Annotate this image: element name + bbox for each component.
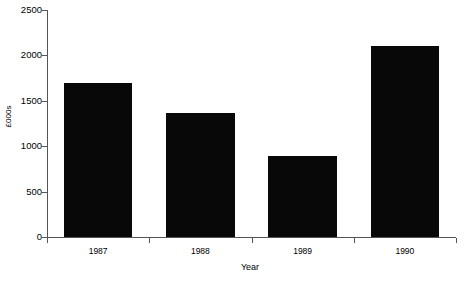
plot-area (47, 10, 456, 237)
x-axis-tick-label: 1987 (47, 246, 149, 256)
x-axis-tick-label: 1989 (252, 246, 354, 256)
x-axis-tick-label: 1988 (149, 246, 251, 256)
y-axis-tick-label: 2500 (8, 5, 42, 15)
bar (371, 46, 440, 237)
x-axis-tick-label: 1990 (354, 246, 456, 256)
x-axis-title: Year (0, 262, 467, 272)
y-axis-tick-label: 2000 (8, 50, 42, 60)
x-axis-tick-mark (149, 238, 150, 243)
bar (268, 156, 337, 237)
bar (64, 83, 133, 237)
y-axis-tick-labels: 05001000150020002500 (6, 0, 42, 286)
y-axis-tick-label: 1500 (8, 96, 42, 106)
x-axis-tick-mark (47, 238, 48, 243)
x-axis-tick-mark (456, 238, 457, 243)
y-axis-tick-label: 0 (8, 232, 42, 242)
x-axis-tick-mark (252, 238, 253, 243)
y-axis-tick-label: 1000 (8, 141, 42, 151)
bar (166, 113, 235, 237)
bar-chart: £000s 05001000150020002500 1987198819891… (0, 0, 467, 286)
y-axis-tick-label: 500 (8, 187, 42, 197)
x-axis-tick-mark (354, 238, 355, 243)
